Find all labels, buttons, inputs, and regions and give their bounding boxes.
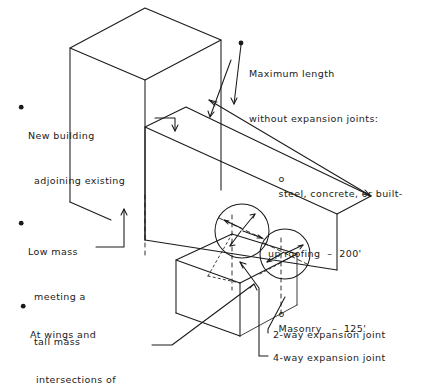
max-length-item1-line2: up roofing – 200' (249, 246, 403, 261)
bullet-dot-wings (20, 303, 28, 311)
label-4way-expansion-joint: 4-way expansion joint (273, 350, 386, 365)
arrow-4way-w (224, 220, 241, 228)
max-length-line2: without expansion joints: (249, 111, 403, 126)
bullet-dot-new-building (18, 104, 26, 112)
leader-max-length-2 (208, 60, 231, 117)
leader-wings (152, 284, 257, 345)
annotation-wings: At wings and intersections of L, T, and … (30, 297, 123, 385)
wing-hidden-edge-b (208, 234, 232, 276)
max-length-item2-line1: o Masonry – 125' (249, 291, 403, 351)
max-length-item1-line1: o steel, concrete, or built- (249, 156, 403, 216)
wing-block-bottom-front (176, 313, 240, 336)
max-length-line1: Maximum length (249, 66, 403, 81)
max-length-item1-text: steel, concrete, or built- (279, 188, 403, 199)
wings-line1: At wings and (30, 327, 123, 342)
diagram-canvas: Maximum length without expansion joints:… (0, 0, 442, 385)
tall-mass-roof (70, 8, 221, 80)
bullet-dot-low-mass (18, 220, 26, 228)
annotation-new-building: New building adjoining existing (28, 98, 125, 218)
max-length-item2-marker: o (279, 308, 285, 319)
wings-line2: intersections of (30, 372, 123, 385)
new-building-line2: adjoining existing (28, 173, 125, 188)
leader-max-length-line (234, 45, 241, 104)
new-building-line1: New building (28, 128, 125, 143)
label-2way-expansion-joint: 2-way expansion joint (273, 327, 386, 342)
max-length-item1-marker: o (279, 173, 285, 184)
low-mass-line1: Low mass (28, 244, 86, 259)
leader-max-length (231, 41, 243, 104)
